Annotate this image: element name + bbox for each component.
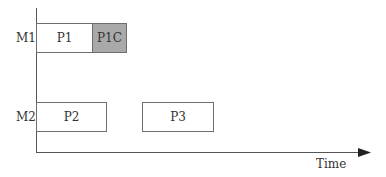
x-axis-label: Time	[316, 158, 346, 170]
x-axis-arrowhead-icon	[358, 148, 371, 157]
job-p3: P3	[142, 102, 214, 132]
machine-label-m2: M2	[16, 111, 36, 123]
job-p1c: P1C	[92, 23, 127, 53]
machine-label-m1: M1	[16, 32, 36, 44]
job-p2: P2	[36, 102, 107, 132]
job-p1: P1	[36, 23, 93, 53]
